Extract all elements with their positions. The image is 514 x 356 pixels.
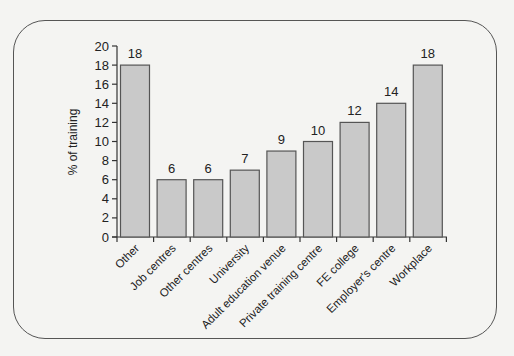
y-axis: 02468101214161820 (95, 39, 117, 245)
bar-value-label: 7 (241, 151, 248, 166)
y-tick-label: 10 (95, 134, 109, 149)
y-tick-label: 0 (102, 230, 109, 245)
x-category-label: Employer's centre (324, 242, 397, 315)
y-tick-label: 18 (95, 58, 109, 73)
y-tick-label: 2 (102, 210, 109, 225)
bar-value-label: 9 (278, 132, 285, 147)
bar-value-label: 6 (205, 161, 212, 176)
bar-value-label: 14 (384, 84, 398, 99)
bar-value-label: 6 (168, 161, 175, 176)
y-tick-label: 20 (95, 39, 109, 54)
x-category-label: Other (113, 242, 142, 271)
y-tick-label: 12 (95, 115, 109, 130)
y-tick-label: 14 (95, 96, 109, 111)
x-axis (112, 237, 447, 242)
y-tick-label: 8 (102, 153, 109, 168)
bars: 18Other6Job centres6Other centres7Univer… (113, 46, 443, 331)
bar-value-label: 10 (311, 123, 325, 138)
bar-value-label: 18 (128, 46, 142, 61)
y-tick-label: 6 (102, 172, 109, 187)
bar-value-label: 18 (421, 46, 435, 61)
y-tick-label: 16 (95, 77, 109, 92)
y-axis-title: % of training (66, 109, 80, 176)
y-tick-label: 4 (102, 191, 109, 206)
bar-value-label: 12 (347, 103, 361, 118)
bar-chart: 02468101214161820 18Other6Job centres6Ot… (0, 0, 514, 356)
